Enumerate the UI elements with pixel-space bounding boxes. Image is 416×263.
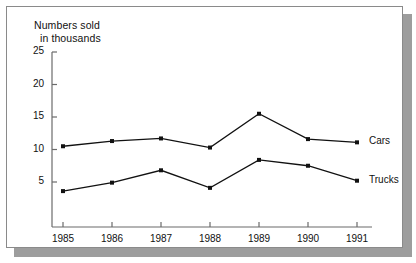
data-point-marker <box>355 179 359 183</box>
data-point-marker <box>208 146 212 150</box>
card-shadow-right <box>403 14 412 257</box>
x-axis-tick-label: 1988 <box>191 233 229 244</box>
data-point-marker <box>110 181 114 185</box>
y-axis-tick-label: 10 <box>22 143 44 154</box>
data-point-marker <box>61 189 65 193</box>
x-axis-tick-label: 1985 <box>44 233 82 244</box>
data-point-marker <box>159 136 163 140</box>
y-axis-tick-label: 25 <box>22 45 44 56</box>
series-line-cars <box>63 114 357 148</box>
x-axis-tick-label: 1991 <box>338 233 376 244</box>
y-axis-tick-label: 15 <box>22 110 44 121</box>
series-label-trucks: Trucks <box>369 174 399 185</box>
x-axis-tick-label: 1987 <box>142 233 180 244</box>
data-point-marker <box>257 112 261 116</box>
y-axis-tick-label: 5 <box>22 175 44 186</box>
data-point-marker <box>257 158 261 162</box>
line-plot <box>7 7 404 249</box>
chart-figure: Numbers sold in thousands 51015202519851… <box>0 0 416 263</box>
y-axis-tick-label: 20 <box>22 78 44 89</box>
x-axis-tick-label: 1989 <box>240 233 278 244</box>
series-label-cars: Cars <box>369 135 390 146</box>
data-point-marker <box>110 139 114 143</box>
x-axis-tick-label: 1986 <box>93 233 131 244</box>
x-axis-tick-label: 1990 <box>289 233 327 244</box>
data-point-marker <box>208 186 212 190</box>
data-point-marker <box>306 137 310 141</box>
data-point-marker <box>61 144 65 148</box>
data-point-marker <box>159 168 163 172</box>
data-point-marker <box>306 164 310 168</box>
card-shadow-bottom <box>14 248 412 257</box>
data-point-marker <box>355 140 359 144</box>
chart-card: Numbers sold in thousands 51015202519851… <box>6 6 403 248</box>
